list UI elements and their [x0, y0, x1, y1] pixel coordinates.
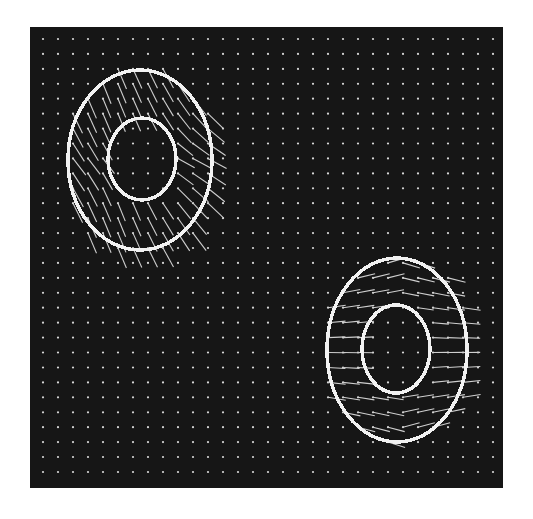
grid-dot [192, 456, 194, 458]
grid-dot [192, 277, 194, 279]
grid-dot [162, 426, 164, 428]
grid-dot [282, 187, 284, 189]
grid-dot [222, 53, 224, 55]
grid-dot [87, 366, 89, 368]
grid-dot [432, 68, 434, 70]
grid-dot [252, 202, 254, 204]
grid-dot [402, 247, 404, 249]
grid-dot [222, 471, 224, 473]
grid-dot [432, 142, 434, 144]
grid-dot [207, 441, 209, 443]
grid-dot [267, 396, 269, 398]
grid-dot [282, 307, 284, 309]
grid-dot [357, 157, 359, 159]
grid-dot [357, 83, 359, 85]
grid-dot [432, 247, 434, 249]
grid-dot [237, 142, 239, 144]
grid-dot [342, 157, 344, 159]
grid-dot [102, 411, 104, 413]
grid-dot [417, 128, 419, 130]
needle-map-figure [0, 0, 533, 519]
grid-dot [237, 426, 239, 428]
grid-dot [312, 351, 314, 353]
grid-dot [117, 277, 119, 279]
grid-dot [222, 38, 224, 40]
grid-dot [147, 142, 149, 144]
grid-dot [492, 277, 494, 279]
grid-dot [267, 292, 269, 294]
grid-dot [42, 83, 44, 85]
grid-dot [147, 441, 149, 443]
grid-dot [342, 83, 344, 85]
grid-dot [327, 262, 329, 264]
grid-dot [42, 411, 44, 413]
grid-dot [312, 411, 314, 413]
grid-dot [477, 471, 479, 473]
grid-dot [312, 292, 314, 294]
grid-dot [417, 83, 419, 85]
grid-dot [417, 337, 419, 339]
grid-dot [222, 381, 224, 383]
grid-dot [57, 307, 59, 309]
grid-dot [177, 292, 179, 294]
grid-dot [162, 142, 164, 144]
grid-dot [72, 307, 74, 309]
grid-dot [177, 441, 179, 443]
grid-dot [57, 68, 59, 70]
grid-dot [387, 217, 389, 219]
grid-dot [432, 172, 434, 174]
grid-dot [102, 292, 104, 294]
grid-dot [282, 202, 284, 204]
grid-dot [357, 232, 359, 234]
grid-dot [297, 351, 299, 353]
grid-dot [387, 471, 389, 473]
grid-dot [102, 38, 104, 40]
grid-dot [492, 351, 494, 353]
grid-dot [462, 68, 464, 70]
grid-dot [387, 322, 389, 324]
grid-dot [327, 232, 329, 234]
grid-dot [342, 38, 344, 40]
grid-dot [72, 337, 74, 339]
grid-dot [72, 366, 74, 368]
grid-dot [357, 441, 359, 443]
grid-dot [492, 426, 494, 428]
grid-dot [477, 83, 479, 85]
grid-dot [282, 292, 284, 294]
grid-dot [237, 292, 239, 294]
grid-dot [252, 396, 254, 398]
grid-dot [282, 426, 284, 428]
grid-dot [267, 456, 269, 458]
grid-dot [492, 172, 494, 174]
grid-dot [237, 217, 239, 219]
grid-dot [222, 351, 224, 353]
grid-dot [72, 322, 74, 324]
grid-dot [72, 68, 74, 70]
grid-dot [177, 456, 179, 458]
grid-dot [327, 157, 329, 159]
grid-dot [222, 142, 224, 144]
grid-dot [72, 426, 74, 428]
grid-dot [222, 441, 224, 443]
grid-dot [57, 98, 59, 100]
grid-dot [342, 217, 344, 219]
grid-dot [342, 142, 344, 144]
grid-dot [447, 142, 449, 144]
grid-dot [417, 68, 419, 70]
grid-dot [432, 83, 434, 85]
grid-dot [492, 366, 494, 368]
grid-dot [207, 98, 209, 100]
grid-dot [87, 277, 89, 279]
grid-dot [327, 128, 329, 130]
grid-dot [132, 187, 134, 189]
grid-dot [87, 53, 89, 55]
grid-dot [192, 411, 194, 413]
grid-dot [117, 426, 119, 428]
grid-dot [57, 262, 59, 264]
grid-dot [327, 456, 329, 458]
grid-dot [222, 202, 224, 204]
grid-dot [477, 277, 479, 279]
grid-dot [42, 157, 44, 159]
grid-dot [117, 337, 119, 339]
grid-dot [477, 142, 479, 144]
